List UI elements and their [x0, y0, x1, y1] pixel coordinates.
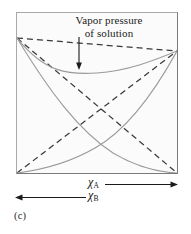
panel-caption: (c)	[14, 210, 26, 221]
annotation-line-1: Vapor pressure	[61, 14, 157, 27]
axis-labels-block: χA χB	[0, 176, 191, 210]
plot-frame: Vapor pressure of solution	[16, 12, 178, 174]
annotation-line-2: of solution	[61, 27, 157, 40]
chi-b-label: χB	[88, 189, 98, 203]
solution-total-pressure-curve	[17, 38, 177, 74]
ideal-total-pressure-line	[17, 38, 177, 51]
vapor-pressure-annotation: Vapor pressure of solution	[61, 14, 157, 39]
ideal-partial-pressure-a-line	[17, 38, 177, 173]
ideal-partial-pressure-b-line	[17, 51, 177, 173]
figure-root: Vapor pressure of solution χA χB	[0, 0, 191, 234]
annotation-arrow-icon	[76, 37, 82, 70]
axis-row-chi-b: χB	[0, 189, 191, 204]
chi-b-subscript: B	[93, 194, 98, 203]
